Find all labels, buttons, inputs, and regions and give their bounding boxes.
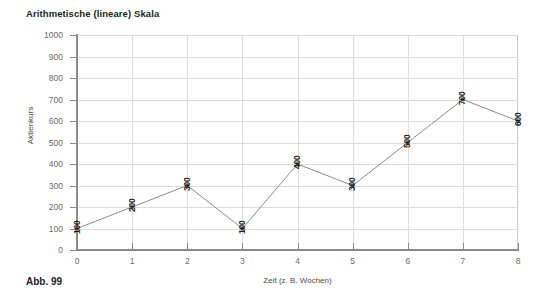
data-point-label: 600 — [513, 112, 523, 126]
data-point-label: 100 — [72, 220, 82, 234]
data-point-label: 300 — [347, 177, 357, 191]
data-point-label: 100 — [237, 220, 247, 234]
figure-caption: Abb. 99 — [26, 276, 62, 287]
data-point-label: 500 — [402, 134, 412, 148]
data-point-label: 300 — [182, 177, 192, 191]
data-point-label: 400 — [292, 155, 302, 169]
data-point-label: 700 — [457, 91, 467, 105]
data-series — [0, 0, 546, 303]
data-point-label: 200 — [127, 198, 137, 212]
